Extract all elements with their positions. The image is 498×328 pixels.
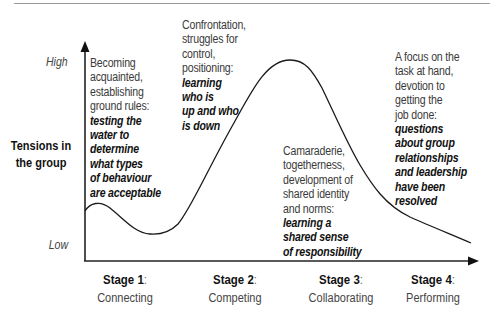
desc-line: establishing (90, 85, 161, 99)
stage-1-description: Becoming acquainted, establishing ground… (90, 56, 161, 200)
colon: : (360, 272, 363, 287)
colon: : (452, 272, 455, 287)
desc-line: control, (182, 47, 246, 61)
stage-name: Competing (187, 291, 284, 305)
y-tick-high: High (46, 55, 68, 69)
stage-4-label: Stage 4: Performing (378, 272, 488, 305)
stage-name: Collaborating (293, 291, 390, 305)
desc-emphasis: about group (395, 136, 467, 150)
y-tick-low: Low (49, 238, 68, 252)
y-axis-title: Tensions in the group (8, 138, 73, 172)
desc-line: shared identity (283, 187, 362, 201)
stage-name: Connecting (77, 291, 174, 305)
stage-3-description: Camaraderie, togetherness, development o… (283, 144, 362, 259)
desc-line: devotion to (395, 79, 467, 93)
stage-2-label: Stage 2: Competing (180, 272, 290, 305)
stage-number-text: Stage 3 (319, 272, 360, 287)
desc-emphasis: determine (90, 142, 161, 156)
desc-line: positioning: (182, 61, 246, 75)
desc-emphasis: is down (182, 119, 246, 133)
desc-line: and norms: (283, 202, 362, 216)
desc-line: ground rules: (90, 99, 161, 113)
colon: : (144, 272, 147, 287)
desc-emphasis: relationships (395, 151, 467, 165)
stage-number-text: Stage 1 (103, 272, 144, 287)
desc-emphasis: of behaviour (90, 171, 161, 185)
desc-emphasis: of responsibility (283, 245, 362, 259)
stage-1-label: Stage 1: Connecting (70, 272, 180, 305)
stage-number: Stage 1: (77, 272, 174, 287)
desc-emphasis: and leadership (395, 165, 467, 179)
desc-emphasis: what types (90, 157, 161, 171)
stage-number: Stage 3: (293, 272, 390, 287)
desc-line: Confrontation, (182, 18, 246, 32)
desc-line: Camaraderie, (283, 144, 362, 158)
desc-emphasis: are acceptable (90, 186, 161, 200)
y-axis-arrow-icon (81, 41, 90, 52)
desc-emphasis: who is (182, 90, 246, 104)
stage-name: Performing (385, 291, 482, 305)
stage-number-text: Stage 2 (213, 272, 254, 287)
desc-emphasis: learning (182, 76, 246, 90)
stage-number: Stage 4: (385, 272, 482, 287)
desc-line: job done: (395, 108, 467, 122)
desc-emphasis: shared sense (283, 230, 362, 244)
desc-emphasis: testing the (90, 114, 161, 128)
desc-line: acquainted, (90, 70, 161, 84)
desc-line: development of (283, 173, 362, 187)
desc-emphasis: questions (395, 122, 467, 136)
stage-number-text: Stage 4 (411, 272, 452, 287)
desc-line: task at hand, (395, 64, 467, 78)
desc-emphasis: up and who (182, 104, 246, 118)
x-axis-arrow-icon (468, 257, 479, 266)
y-axis-title-text: Tensions in the group (11, 139, 71, 170)
desc-line: Becoming (90, 56, 161, 70)
desc-line: togetherness, (283, 158, 362, 172)
desc-emphasis: water to (90, 128, 161, 142)
stage-2-description: Confrontation, struggles for control, po… (182, 18, 246, 133)
desc-emphasis: resolved (395, 194, 467, 208)
desc-line: A focus on the (395, 50, 467, 64)
colon: : (254, 272, 257, 287)
desc-line: struggles for (182, 32, 246, 46)
desc-emphasis: learning a (283, 216, 362, 230)
desc-line: getting the (395, 93, 467, 107)
stage-4-description: A focus on the task at hand, devotion to… (395, 50, 467, 208)
desc-emphasis: have been (395, 180, 467, 194)
stage-number: Stage 2: (187, 272, 284, 287)
